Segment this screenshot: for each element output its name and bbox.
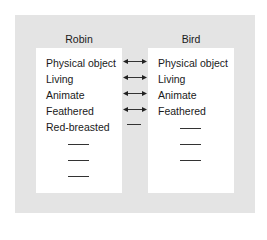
robin-feature: Animate [46, 89, 85, 101]
bird-feature: Physical object [158, 57, 228, 69]
bird-feature-box: Physical object Living Animate Feathered [148, 48, 234, 193]
blank-line [68, 144, 89, 145]
blank-line [180, 144, 201, 145]
robin-feature-box: Physical object Living Animate Feathered… [36, 48, 122, 193]
blank-line [68, 160, 89, 161]
bird-feature: Animate [158, 89, 197, 101]
blank-line [180, 128, 201, 129]
double-arrow-icon [123, 90, 147, 97]
blank-line [68, 176, 89, 177]
blank-line [180, 160, 201, 161]
robin-title: Robin [36, 33, 122, 45]
robin-feature: Living [46, 73, 73, 85]
robin-feature: Red-breasted [46, 121, 110, 133]
robin-feature: Physical object [46, 57, 116, 69]
bird-title: Bird [148, 33, 234, 45]
bird-feature: Feathered [158, 105, 206, 117]
robin-feature: Feathered [46, 105, 94, 117]
double-arrow-icon [123, 58, 147, 65]
double-arrow-icon [123, 74, 147, 81]
bird-feature: Living [158, 73, 185, 85]
no-match-dash [127, 124, 141, 125]
double-arrow-icon [123, 106, 147, 113]
